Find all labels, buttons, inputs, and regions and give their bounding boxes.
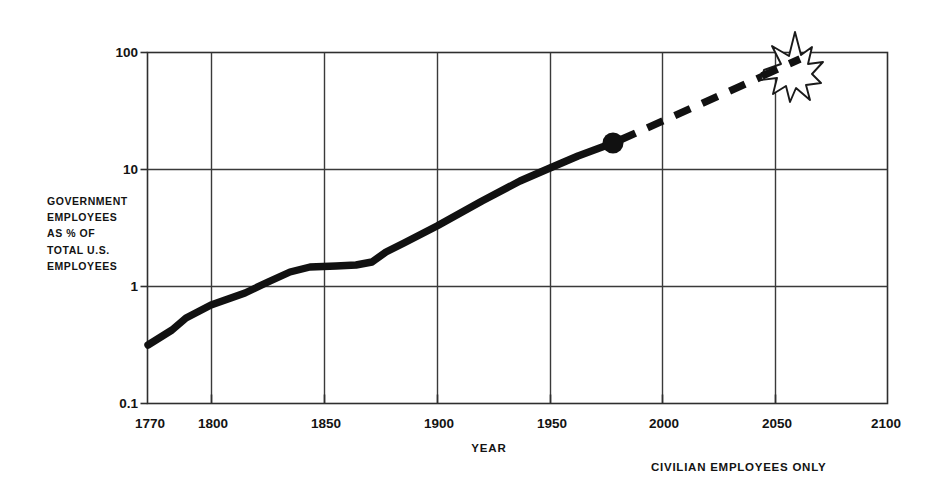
x-axis-title: YEAR xyxy=(471,442,507,454)
x-tick-label-1800: 1800 xyxy=(198,416,228,431)
y-tick-label-1: 1 xyxy=(92,279,138,294)
explosion-burst-icon xyxy=(761,32,823,102)
x-tick-label-1950: 1950 xyxy=(537,416,567,431)
x-tick-label-2000: 2000 xyxy=(649,416,679,431)
x-gridlines xyxy=(212,53,776,404)
y-axis-label-line-3: AS % OF xyxy=(47,225,147,241)
chart-figure: GOVERNMENT EMPLOYEES AS % OF TOTAL U.S. … xyxy=(0,0,937,495)
y-axis-label-line-2: EMPLOYEES xyxy=(47,209,147,225)
chart-footnote: CIVILIAN EMPLOYEES ONLY xyxy=(651,461,826,473)
y-axis-label-line-1: GOVERNMENT xyxy=(47,193,147,209)
y-axis-label-line-5: EMPLOYEES xyxy=(47,258,147,274)
y-axis-label-line-4: TOTAL U.S. xyxy=(47,242,147,258)
y-tick-label-0.1: 0.1 xyxy=(92,396,138,411)
plot-frame xyxy=(148,53,888,404)
x-tick-label-2100: 2100 xyxy=(871,416,901,431)
x-tick-marks xyxy=(212,395,776,404)
series-historical-line xyxy=(148,143,613,345)
x-tick-label-2050: 2050 xyxy=(762,416,792,431)
y-gridlines xyxy=(148,170,888,287)
y-tick-label-100: 100 xyxy=(92,45,138,60)
x-tick-label-1900: 1900 xyxy=(424,416,454,431)
y-tick-label-10: 10 xyxy=(92,162,138,177)
x-tick-label-1850: 1850 xyxy=(311,416,341,431)
x-tick-label-1770: 1770 xyxy=(135,416,165,431)
y-axis-label: GOVERNMENT EMPLOYEES AS % OF TOTAL U.S. … xyxy=(47,193,147,274)
end-of-data-marker xyxy=(603,133,624,154)
